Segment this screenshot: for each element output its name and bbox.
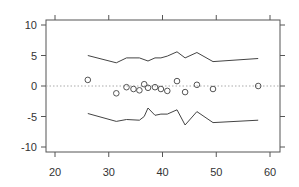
x-tick-label: 20 [49,166,61,178]
x-tick-label: 50 [210,166,222,178]
top-ticks [55,15,270,20]
y-tick-label: -10 [21,141,37,153]
data-point [137,88,143,94]
y-tick-label: 10 [25,19,37,31]
y-tick-label: 5 [31,50,37,62]
lower-bound-line [88,108,258,125]
data-point [165,88,171,94]
chart: 2030405060 1050-5-10 [0,0,299,187]
data-point [124,84,130,90]
data-points [85,77,261,96]
data-point [174,78,180,84]
x-tick-label: 30 [103,166,115,178]
data-point [85,77,91,83]
right-ticks [280,25,285,147]
data-point [194,82,200,88]
data-point [152,84,158,90]
data-point [210,86,216,92]
y-tick-label: 0 [31,80,37,92]
upper-bound-line [88,52,258,63]
data-point [131,86,137,92]
x-tick-label: 60 [264,166,276,178]
data-point [182,89,188,95]
data-point [114,91,120,97]
x-tick-label: 40 [156,166,168,178]
data-point [158,86,164,92]
y-axis: 1050-5-10 [21,19,46,153]
y-tick-label: -5 [27,111,37,123]
x-axis: 2030405060 [49,152,276,178]
bound-lines [88,52,258,125]
